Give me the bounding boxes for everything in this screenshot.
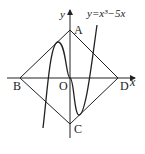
diagram: y=x³−5x y x A B C D O	[0, 0, 145, 154]
diagram-canvas	[0, 0, 145, 154]
y-axis-label: y	[60, 9, 65, 20]
point-c-label: C	[74, 123, 82, 135]
point-a-label: A	[74, 24, 83, 36]
origin-label: O	[59, 80, 68, 92]
curve-label: y=x³−5x	[87, 8, 125, 19]
x-axis-label: x	[130, 76, 135, 88]
point-b-label: B	[13, 80, 21, 92]
point-d-label: D	[120, 80, 129, 92]
